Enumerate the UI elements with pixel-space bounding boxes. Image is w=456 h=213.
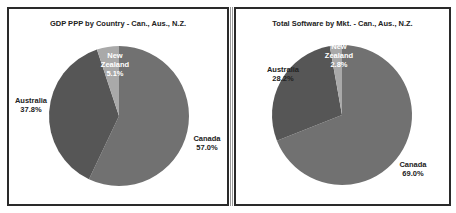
data-label-australia: Australia37.8%: [15, 96, 48, 114]
data-label-canada: Canada57.0%: [193, 134, 221, 152]
pie-chart-1: Canada69.0%Australia28.2%NewZealand2.8%: [267, 42, 427, 185]
pie-charts: Canada57.0%Australia37.8%NewZealand5.1%C…: [0, 0, 456, 213]
pie-chart-0: Canada57.0%Australia37.8%NewZealand5.1%: [15, 46, 221, 186]
data-label-canada: Canada69.0%: [399, 160, 427, 178]
